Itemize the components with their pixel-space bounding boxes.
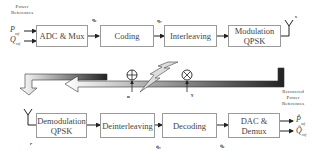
signal-qc: q꜀ bbox=[157, 17, 162, 23]
signal-qhat-c: q̂꜀ bbox=[156, 143, 161, 149]
p-hat-output: P̂ref bbox=[296, 115, 305, 126]
signal-q0: q₀ bbox=[92, 17, 96, 22]
noise-label: n bbox=[127, 94, 130, 99]
power-references-label: PowerReferences bbox=[4, 4, 40, 16]
decoding-block: Decoding bbox=[162, 113, 217, 138]
dac-demux-block: DAC &Demux bbox=[228, 113, 280, 138]
q-hat-output: Q̂ref bbox=[296, 126, 306, 137]
q-ref-input: Qref bbox=[10, 35, 20, 46]
fading-label: γ bbox=[191, 92, 193, 97]
coding-block: Coding bbox=[100, 25, 154, 47]
p-ref-input: Pref bbox=[10, 25, 19, 36]
interleaving-block: Interleaving bbox=[164, 25, 217, 47]
signal-qhat-0: q̂₀ bbox=[220, 143, 224, 148]
signal-s: s bbox=[295, 14, 297, 19]
adc-mux-block: ADC & Mux bbox=[36, 25, 88, 47]
modulation-qpsk-block: ModulationQPSK bbox=[228, 25, 281, 47]
deinterleaving-block: Deinterleaving bbox=[100, 113, 155, 138]
signal-r: r bbox=[30, 141, 32, 146]
recovered-power-references-label: RecoveredPowerReferences bbox=[270, 89, 316, 107]
demodulation-qpsk-block: DemodulationQPSK bbox=[36, 113, 87, 138]
